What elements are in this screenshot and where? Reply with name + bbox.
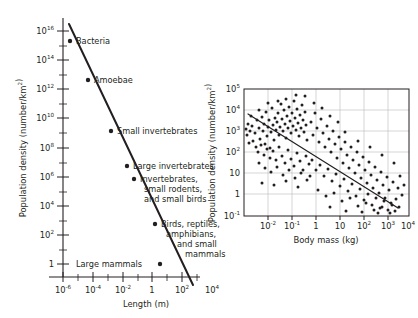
svg-text:10-6: 10-6: [55, 284, 72, 295]
svg-text:102: 102: [175, 284, 189, 295]
ryt6-base: 10: [224, 211, 235, 221]
svg-text:mammals: mammals: [185, 249, 226, 259]
figure-population-density-panels: 1016 1014 1012 1010 108 106 104 102 1: [0, 0, 418, 318]
ryt3-exp: 2: [236, 146, 240, 152]
rxt5-base: 10: [381, 221, 392, 231]
ryt6-exp: -1: [234, 210, 240, 216]
label-amoebae: Amoebae: [94, 75, 133, 85]
ryt0-exp: 5: [236, 83, 240, 89]
lyt0-exp: 16: [47, 25, 55, 31]
point-invertebrates-rodents-birds: [132, 177, 136, 181]
lxt0-exp: -6: [66, 284, 72, 290]
ryt3-base: 10: [226, 147, 237, 157]
ryt0-base: 10: [226, 84, 237, 94]
svg-text:small rodents,: small rodents,: [144, 184, 202, 194]
rxt2-base: 1: [313, 221, 318, 231]
svg-text:10: 10: [335, 221, 346, 231]
lyt4-exp: 8: [50, 142, 54, 148]
svg-text:104: 104: [401, 220, 416, 231]
ryt2-base: 10: [226, 126, 237, 136]
svg-text:108: 108: [40, 142, 55, 153]
svg-text:1: 1: [235, 189, 240, 199]
rxt1-exp: -1: [295, 220, 301, 226]
svg-text:102: 102: [40, 229, 54, 240]
svg-text:103: 103: [226, 125, 241, 136]
lyt7-base: 10: [40, 230, 51, 240]
lyt0-base: 10: [36, 26, 47, 36]
rxt6-base: 10: [401, 221, 412, 231]
label-large-mammals: Large mammals: [76, 259, 142, 269]
left-data-points: [68, 39, 162, 266]
right-y-tick-labels: 105 104 103 102 10 1 10-1: [224, 83, 241, 221]
right-panel: 105 104 103 102 10 1 10-1 10-2 10-1: [203, 83, 416, 245]
label-large-invertebrates: Large invertebrates: [133, 161, 214, 171]
left-trendline: [69, 24, 193, 285]
svg-text:1: 1: [149, 285, 154, 295]
svg-text:and small birds: and small birds: [144, 194, 207, 204]
left-x-axis-label: Length (m): [123, 299, 169, 309]
lyt6-base: 10: [40, 201, 51, 211]
lyt6-exp: 4: [50, 200, 54, 206]
svg-text:1010: 1010: [36, 112, 54, 123]
svg-text:1: 1: [49, 259, 54, 269]
svg-text:10-1: 10-1: [284, 220, 301, 231]
svg-text:104: 104: [226, 104, 241, 115]
point-large-invertebrates: [125, 164, 129, 168]
svg-text:1016: 1016: [36, 25, 54, 36]
ryt2-exp: 3: [236, 125, 240, 131]
lyt5-base: 10: [40, 172, 51, 182]
point-large-mammals: [158, 262, 162, 266]
svg-text:102: 102: [357, 220, 371, 231]
figure-canvas: 1016 1014 1012 1010 108 106 104 102 1: [0, 0, 418, 318]
lxt5-exp: 4: [216, 284, 220, 290]
left-y-tick-labels: 1016 1014 1012 1010 108 106 104 102 1: [36, 25, 54, 269]
lyt1-exp: 14: [47, 54, 55, 60]
lxt0-base: 10: [55, 285, 66, 295]
right-x-axis-label: Body mass (kg): [293, 235, 358, 245]
left-panel: 1016 1014 1012 1010 108 106 104 102 1: [14, 18, 226, 309]
rxt6-exp: 4: [412, 220, 416, 226]
ryt5-base: 1: [235, 189, 240, 199]
ryt1-exp: 4: [236, 104, 240, 110]
lxt1-exp: -4: [96, 284, 102, 290]
lxt2-exp: -2: [126, 284, 132, 290]
label-invertebrates-rodents-birds: Invertebrates, small rodents, and small …: [140, 174, 207, 204]
rxt4-base: 10: [357, 221, 368, 231]
lyt1-base: 10: [36, 55, 47, 65]
lyt2-base: 10: [36, 84, 47, 94]
lxt3-base: 1: [149, 285, 154, 295]
lxt4-exp: 2: [186, 284, 190, 290]
svg-text:and small: and small: [177, 239, 217, 249]
rxt3-base: 10: [335, 221, 346, 231]
svg-text:amphibians,: amphibians,: [166, 229, 216, 239]
svg-text:1: 1: [313, 221, 318, 231]
lyt4-base: 10: [40, 143, 51, 153]
ryt1-base: 10: [226, 105, 237, 115]
label-bacteria: Bacteria: [76, 36, 110, 46]
point-small-invertebrates: [109, 129, 113, 133]
svg-text:1014: 1014: [36, 54, 54, 65]
svg-text:104: 104: [40, 200, 55, 211]
svg-text:Invertebrates,: Invertebrates,: [140, 174, 198, 184]
lyt3-exp: 10: [47, 112, 55, 118]
lyt3-base: 10: [36, 113, 47, 123]
rxt4-exp: 2: [368, 220, 372, 226]
lxt4-base: 10: [175, 285, 186, 295]
ryt4-base: 10: [229, 168, 240, 178]
lyt8-base: 1: [49, 259, 54, 269]
point-amoebae: [86, 78, 90, 82]
lxt5-base: 10: [205, 285, 216, 295]
svg-text:10-4: 10-4: [85, 284, 102, 295]
svg-text:10-1: 10-1: [224, 210, 241, 221]
svg-text:103: 103: [381, 220, 396, 231]
left-point-labels: Bacteria Amoebae Small invertebrates Lar…: [76, 36, 226, 269]
lyt2-exp: 12: [47, 83, 54, 89]
rxt5-exp: 3: [392, 220, 396, 226]
right-scatter-points: [245, 94, 406, 215]
lyt5-exp: 6: [50, 171, 54, 177]
svg-text:105: 105: [226, 83, 241, 94]
svg-text:10-2: 10-2: [115, 284, 131, 295]
rxt1-base: 10: [284, 221, 295, 231]
svg-text:10: 10: [229, 168, 240, 178]
left-x-tick-labels: 10-6 10-4 10-2 1 102 104: [55, 284, 220, 295]
